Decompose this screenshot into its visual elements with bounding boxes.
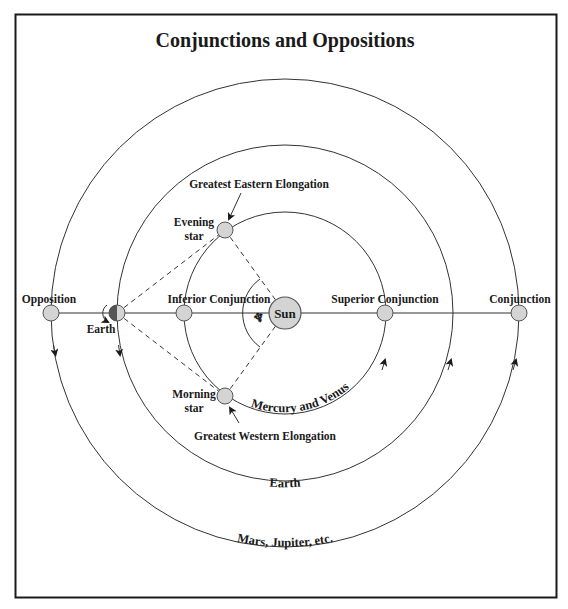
conjunction-planet [511,305,527,321]
superior-conjunction-label: Superior Conjunction [331,293,439,306]
diagram-title: Conjunctions and Oppositions [156,29,415,52]
earth-icon [109,305,125,321]
morning-star-planet [217,388,233,404]
greatest-eastern-elongation-label: Greatest Eastern Elongation [189,178,329,191]
evening-star-planet [217,222,233,238]
evening-star-label-line2: star [184,230,203,242]
inferior-conjunction-label: Inferior Conjunction [168,293,272,306]
morning-star-label-line1: Morning [172,388,216,401]
earth-orbit-label: Earth [269,476,301,491]
morning-star-label-line2: star [184,402,203,414]
opposition-label: Opposition [22,293,77,306]
superior-conjunction-planet [377,305,393,321]
earth-orbit-label-path: Earth [269,476,301,491]
evening-star-label-line1: Evening [174,216,215,229]
conjunctions-oppositions-diagram: Conjunctions and Oppositions ♆ Sun Oppos… [0,0,568,609]
conjunction-label: Conjunction [489,293,551,306]
earth-label: Earth [87,323,116,335]
greatest-western-elongation-label: Greatest Western Elongation [194,430,337,443]
opposition-planet [43,305,59,321]
inferior-conjunction-planet [176,305,192,321]
sun-label: Sun [274,306,296,321]
